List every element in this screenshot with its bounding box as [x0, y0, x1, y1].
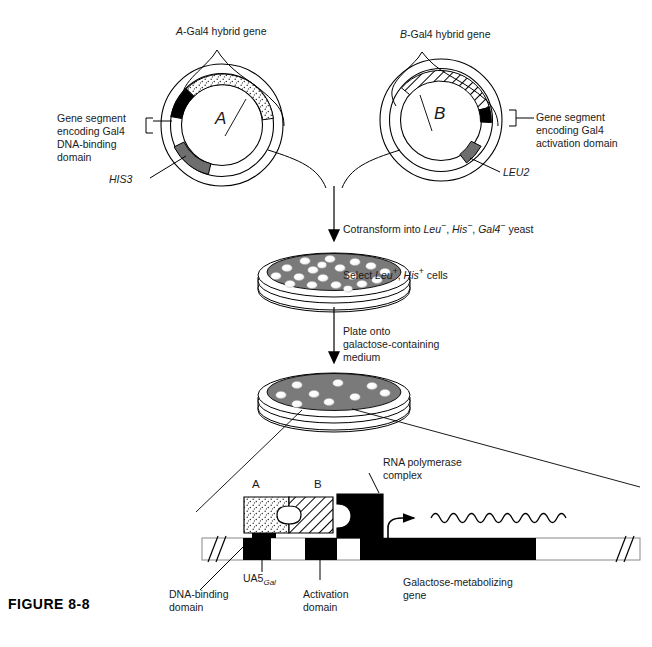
plasmid-b-graphic	[380, 52, 534, 181]
cotransform-line2: Select Leu+, His+ cells	[343, 264, 534, 282]
plasmid-b-center-letter: B	[434, 107, 445, 120]
rnap-l1: RNA polymerase	[383, 456, 462, 468]
uas-main: UA5	[243, 572, 263, 584]
ct2-his: His	[404, 268, 419, 280]
plasmid-b-segment-label: Gene segment encoding Gal4 activation do…	[536, 111, 618, 150]
plasmid-b-title-prefix: B	[400, 28, 407, 40]
plasmid-a-seg-l1: Gene segment	[57, 112, 126, 124]
rna-polymerase-label: RNA polymerase complex	[383, 456, 462, 482]
galactose-plate-graphic	[196, 373, 640, 512]
plate-l1: Plate onto	[343, 325, 390, 337]
figure-canvas: A-Gal4 hybrid gene A Gene segment encodi…	[0, 0, 652, 647]
his3-label: HIS3	[109, 173, 132, 186]
plasmid-a-title-prefix: A	[176, 25, 183, 37]
ct2-leu: Leu	[375, 268, 393, 280]
dna-contact-foot	[252, 533, 276, 538]
galactose-gene-box	[360, 538, 536, 560]
plasmid-a-segment-label: Gene segment encoding Gal4 DNA-binding d…	[57, 112, 126, 164]
rna-transcript-squiggle	[431, 514, 566, 523]
plasmid-a-seg-l4: domain	[57, 151, 91, 163]
ct-leu: Leu	[424, 223, 442, 235]
cotransform-line1: Cotransform into Leu−, His−, Gal4− yeast	[343, 218, 534, 236]
dbd-l2: domain	[169, 601, 203, 613]
gml-l1: Galactose-metabolizing	[403, 576, 513, 588]
plasmid-a-title: A-Gal4 hybrid gene	[176, 25, 266, 38]
uas-gal-label: UA5Gal	[243, 572, 276, 589]
uas-sub: Gal	[263, 578, 275, 587]
plasmid-b-title: B-Gal4 hybrid gene	[400, 28, 490, 41]
protein-a-label: A	[252, 478, 260, 491]
galactose-gene-label: Galactose-metabolizing gene	[403, 576, 513, 602]
diagram-svg	[0, 0, 652, 647]
plasmid-b-title-rest: -Gal4 hybrid gene	[407, 28, 490, 40]
rna-polymerase-complex-block	[337, 494, 383, 538]
act-l2: domain	[303, 601, 337, 613]
ct-gal: Gal4	[478, 223, 500, 235]
ct2-c: cells	[424, 268, 448, 280]
plasmid-b-seg-l2: encoding Gal4	[536, 124, 604, 136]
protein-b-label: B	[314, 478, 322, 491]
plasmid-a-title-rest: -Gal4 hybrid gene	[183, 25, 266, 37]
plate-l2: galactose-containing	[343, 338, 439, 350]
figure-caption: FIGURE 8-8	[8, 596, 90, 612]
plasmid-b-seg-l3: activation domain	[536, 137, 618, 149]
protein-a-bait-domain	[244, 497, 289, 533]
dna-binding-domain-label: DNA-binding domain	[169, 588, 229, 614]
plasmid-a-center-letter: A	[215, 112, 226, 125]
plate-l3: medium	[343, 351, 380, 363]
activation-site-box	[305, 538, 337, 560]
plasmid-b-gal4-activation-segment	[479, 107, 492, 122]
act-l1: Activation	[303, 588, 349, 600]
ct-a: Cotransform into	[343, 223, 424, 235]
gml-l2: gene	[403, 589, 426, 601]
cotransform-step-text: Cotransform into Leu−, His−, Gal4− yeast…	[343, 190, 534, 309]
activation-domain-label: Activation domain	[303, 588, 349, 614]
plasmid-a-seg-l2: encoding Gal4	[57, 125, 125, 137]
plate-step-text: Plate onto galactose-containing medium	[343, 325, 439, 364]
uas-gal-box	[243, 538, 271, 560]
plasmid-a-seg-l3: DNA-binding	[57, 138, 117, 150]
ct2-a: Select	[343, 268, 375, 280]
leu2-label: LEU2	[503, 166, 529, 179]
protein-a-gal4-piece	[289, 497, 333, 533]
ct-d: yeast	[505, 223, 533, 235]
dbd-l1: DNA-binding	[169, 588, 229, 600]
plasmid-b-seg-l1: Gene segment	[536, 111, 605, 123]
rnap-l2: complex	[383, 469, 422, 481]
ct-his: His	[452, 223, 467, 235]
